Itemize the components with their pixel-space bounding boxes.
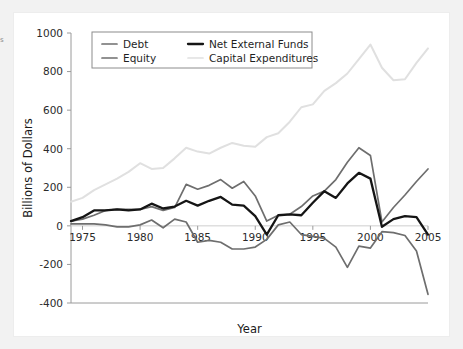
y-tick-label: 600	[43, 104, 63, 116]
legend-label: Equity	[123, 52, 156, 64]
chart-page: s -400-200020040060080010001975198019851…	[0, 0, 463, 349]
chart-legend: DebtNet External FundsEquityCapital Expe…	[92, 32, 318, 68]
y-tick-label: 400	[43, 143, 63, 155]
x-axis-title: Year	[236, 322, 262, 336]
line-chart: -400-20002004006008001000197519801985199…	[14, 13, 449, 336]
legend-label: Debt	[123, 38, 148, 50]
x-tick-label: 1975	[69, 231, 96, 243]
x-tick-label: 2000	[357, 231, 384, 243]
x-tick-label: 1980	[127, 231, 154, 243]
y-tick-label: 1000	[36, 27, 63, 39]
legend-label: Net External Funds	[209, 38, 309, 50]
y-tick-label: -400	[39, 297, 63, 309]
page-edge-artifact: s	[0, 36, 11, 54]
y-tick-label: 800	[43, 65, 63, 77]
y-tick-label: 0	[56, 220, 63, 232]
y-tick-label: -200	[39, 258, 63, 270]
y-axis-title: Billions of Dollars	[21, 118, 35, 217]
y-tick-label: 200	[43, 181, 63, 193]
chart-panel: -400-20002004006008001000197519801985199…	[14, 13, 449, 336]
legend-label: Capital Expenditures	[209, 52, 318, 64]
